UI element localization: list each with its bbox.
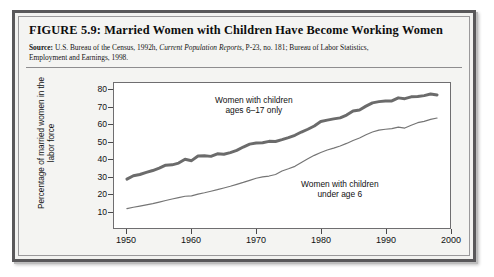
source-text-part-2: P-23, no. 181; Bureau of Labor Statistic…	[244, 43, 369, 52]
source-label: Source:	[29, 43, 53, 52]
chart-container: Percentage of married women in the labor…	[19, 69, 469, 261]
x-tick-label: 1990	[366, 235, 406, 245]
y-tick-label: 60	[85, 119, 107, 129]
y-tick-label: 40	[85, 154, 107, 164]
y-tick-label: 70	[85, 102, 107, 112]
y-tick-label: 30	[85, 172, 107, 182]
source-text-part-1: U.S. Bureau of the Census, 1992h,	[53, 43, 159, 52]
lower-series-label: Women with children under age 6	[301, 179, 379, 200]
x-tick-mark	[386, 229, 387, 234]
figure-header: FIGURE 5.9: Married Women with Children …	[29, 23, 459, 38]
y-tick-mark	[108, 107, 113, 108]
y-tick-mark	[108, 159, 113, 160]
y-tick-label: 20	[85, 189, 107, 199]
y-tick-mark	[108, 212, 113, 213]
figure-title: FIGURE 5.9: Married Women with Children …	[29, 23, 459, 38]
y-tick-mark	[108, 194, 113, 195]
figure-outer-frame: FIGURE 5.9: Married Women with Children …	[12, 10, 476, 262]
x-tick-label: 1960	[171, 235, 211, 245]
x-tick-mark	[126, 229, 127, 234]
figure-source-note: Source: U.S. Bureau of the Census, 1992h…	[29, 43, 457, 62]
figure-inner-panel: FIGURE 5.9: Married Women with Children …	[18, 16, 470, 256]
x-tick-mark	[451, 229, 452, 234]
lower-series-label-line1: Women with children	[301, 179, 379, 189]
x-tick-label: 1950	[106, 235, 146, 245]
header-divider	[26, 67, 462, 68]
source-text-part-3: Employment and Earnings, 1998.	[29, 53, 128, 62]
y-tick-mark	[108, 142, 113, 143]
x-tick-label: 1970	[236, 235, 276, 245]
upper-series-label: Women with children ages 6–17 only	[215, 95, 293, 116]
x-tick-label: 1980	[301, 235, 341, 245]
y-tick-label: 10	[85, 207, 107, 217]
y-tick-label: 80	[85, 84, 107, 94]
lower-series-label-line2: under age 6	[301, 189, 379, 199]
y-tick-label: 50	[85, 137, 107, 147]
x-tick-mark	[191, 229, 192, 234]
y-axis-title: Percentage of married women in the labor…	[37, 68, 57, 218]
y-tick-mark	[108, 177, 113, 178]
x-tick-mark	[256, 229, 257, 234]
y-axis-tick-labels: 1020304050607080	[83, 82, 107, 229]
x-tick-label: 2000	[431, 235, 471, 245]
y-tick-mark	[108, 124, 113, 125]
source-publication-title: Current Population Reports,	[159, 43, 244, 52]
upper-series-label-line2: ages 6–17 only	[215, 105, 293, 115]
x-tick-mark	[321, 229, 322, 234]
y-tick-mark	[108, 89, 113, 90]
upper-series-label-line1: Women with children	[215, 95, 293, 105]
